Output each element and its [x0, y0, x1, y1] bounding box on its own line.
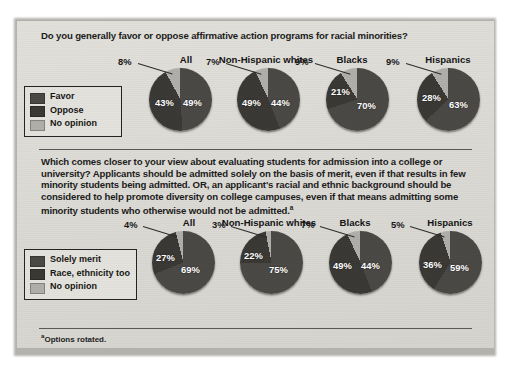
legend-swatch-favor — [30, 93, 45, 104]
legend-item-no-opinion-q2: No opinion — [30, 281, 130, 294]
pie-label-q2-all-race: 27% — [156, 252, 175, 263]
pie-label-q1-nonhispanic-oppose: 49% — [242, 97, 261, 108]
pie-label-q1-hispanics-oppose: 28% — [422, 92, 441, 103]
pie-shape-q2-nonhispanic — [240, 231, 303, 294]
column-header-hispanics-q1: Hispanics — [407, 54, 489, 65]
pie-label-q1-hispanics-favor: 63% — [449, 99, 468, 110]
legend-item-favor: Favor — [30, 91, 115, 104]
legend-label-oppose: Oppose — [50, 105, 84, 116]
figure-panel: Do you generally favor or oppose affirma… — [17, 21, 494, 348]
legend-swatch-race-ethnicity — [30, 269, 45, 280]
column-header-all-q1: All — [166, 54, 206, 65]
legend-swatch-no-opinion-q2 — [30, 283, 45, 294]
section-divider-top — [39, 149, 472, 150]
legend-swatch-no-opinion — [30, 120, 45, 131]
legend-item-oppose: Oppose — [30, 105, 115, 118]
section-divider-bottom — [39, 328, 472, 329]
pie-label-q2-hispanics-merit: 59% — [450, 262, 469, 273]
pie-label-q2-all-noopinion: 4% — [124, 219, 138, 230]
pie-label-q1-hispanics-noopinion: 9% — [386, 56, 400, 67]
pie-label-q2-blacks-noopinion: 7% — [301, 219, 315, 230]
pie-label-q2-hispanics-race: 36% — [423, 259, 442, 270]
legend-swatch-oppose — [30, 106, 45, 117]
legend-question-1: Favor Oppose No opinion — [24, 86, 122, 137]
pie-label-q1-blacks-oppose: 21% — [331, 86, 350, 97]
question-1-text: Do you generally favor or oppose affirma… — [41, 30, 486, 42]
footnote-text: Options rotated. — [44, 335, 106, 344]
pie-label-q2-hispanics-noopinion: 5% — [391, 219, 405, 230]
legend-label-no-opinion: No opinion — [50, 118, 97, 129]
question-2-text: Which comes closer to your view about ev… — [41, 156, 466, 217]
column-header-all-q2: All — [169, 217, 209, 228]
pie-label-q1-all-oppose: 43% — [155, 97, 174, 108]
legend-question-2: Solely merit Race, ethnicity too No opin… — [24, 249, 137, 300]
legend-item-no-opinion: No opinion — [30, 118, 115, 131]
pie-label-q1-nonhispanic-favor: 44% — [271, 97, 290, 108]
question-2-footnote-marker: a — [290, 204, 293, 211]
pie-label-q2-nonhispanic-race: 22% — [244, 250, 263, 261]
legend-label-no-opinion-q2: No opinion — [50, 281, 97, 292]
column-header-hispanics-q2: Hispanics — [409, 217, 491, 228]
pie-label-q1-nonhispanic-noopinion: 7% — [206, 56, 220, 67]
column-header-blacks-q1: Blacks — [319, 54, 385, 65]
legend-label-favor: Favor — [50, 91, 75, 102]
pie-label-q2-all-merit: 69% — [181, 264, 200, 275]
legend-item-solely-merit: Solely merit — [30, 254, 130, 267]
pie-label-q1-all-noopinion: 8% — [118, 56, 132, 67]
pie-label-q2-blacks-race: 49% — [333, 260, 352, 271]
pie-label-q2-nonhispanic-merit: 75% — [269, 264, 288, 275]
legend-item-race-ethnicity: Race, ethnicity too — [30, 268, 130, 281]
legend-swatch-solely-merit — [30, 256, 45, 267]
pie-label-q2-nonhispanic-noopinion: 3% — [212, 219, 226, 230]
pie-label-q2-blacks-merit: 44% — [361, 260, 380, 271]
pie-label-q1-blacks-noopinion: 9% — [295, 56, 309, 67]
footnote: aOptions rotated. — [41, 332, 106, 344]
legend-label-race-ethnicity: Race, ethnicity too — [50, 268, 130, 279]
legend-label-solely-merit: Solely merit — [50, 254, 101, 265]
pie-label-q1-blacks-favor: 70% — [357, 100, 376, 111]
column-header-blacks-q2: Blacks — [322, 217, 388, 228]
pie-label-q1-all-favor: 49% — [183, 97, 202, 108]
figure-page: Do you generally favor or oppose affirma… — [0, 0, 508, 378]
